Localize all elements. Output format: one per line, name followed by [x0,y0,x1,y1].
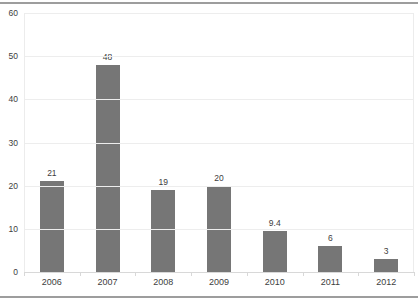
x-axis-tick [414,272,415,276]
y-axis-tick-label: 30 [9,139,18,148]
bar-value-label: 20 [214,173,223,183]
bottom-rule [0,296,418,298]
bar-chart: 0102030405060 214819209.463 200620072008… [0,0,418,302]
gridline [24,56,414,57]
y-axis-tick-label: 20 [9,182,18,191]
y-axis-tick-label: 60 [9,9,18,18]
bar-value-label: 6 [328,233,333,243]
x-axis-tick [191,272,192,276]
bar-value-label: 3 [384,246,389,256]
x-axis-category-label: 2008 [135,277,191,288]
x-axis-tick [303,272,304,276]
bar [40,181,64,272]
plot-area: 214819209.463 [24,13,414,272]
bar-value-label: 21 [47,168,56,178]
bar [96,65,120,272]
bar [318,246,342,272]
gridline [24,229,414,230]
x-axis-line [24,272,414,273]
x-axis-tick [247,272,248,276]
plot-edge-line [413,13,414,272]
gridline [24,186,414,187]
y-axis-tick-label: 10 [9,225,18,234]
gridline [24,13,414,14]
y-axis-tick-label: 50 [9,52,18,61]
x-axis-category-label: 2012 [358,277,414,288]
x-axis-tick [358,272,359,276]
y-axis: 0102030405060 [0,0,18,302]
x-axis-category-label: 2011 [303,277,359,288]
y-axis-tick-label: 0 [13,268,18,277]
bar [263,231,287,272]
x-axis-category-label: 2009 [191,277,247,288]
top-rule [0,2,418,4]
x-axis-category-label: 2010 [247,277,303,288]
gridline [24,143,414,144]
plot-edge-line [24,13,25,272]
x-axis-tick [135,272,136,276]
bar [374,259,398,272]
x-axis-tick [24,272,25,276]
gridline [24,99,414,100]
x-axis-category-label: 2006 [24,277,80,288]
bar [151,190,175,272]
x-axis-category-label: 2007 [80,277,136,288]
bar-value-label: 9.4 [269,218,281,228]
x-axis-tick [80,272,81,276]
y-axis-tick-label: 40 [9,95,18,104]
x-axis: 2006200720082009201020112012 [24,277,414,288]
